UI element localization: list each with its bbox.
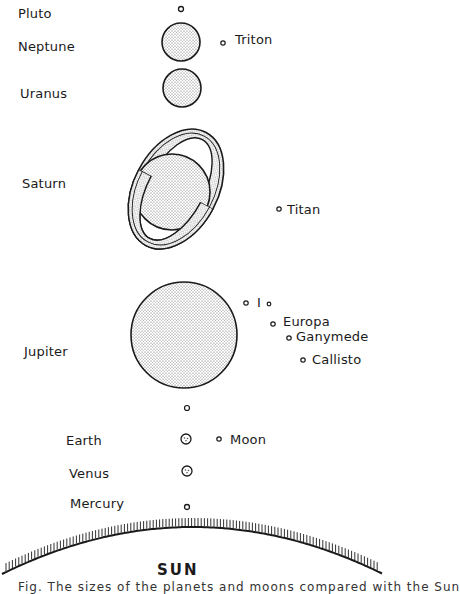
small-body-dot-1: [185, 406, 190, 411]
moon-i-dot: [244, 301, 248, 305]
label-moon-triton: Triton: [235, 33, 272, 46]
moon-europa-dot: [271, 322, 275, 326]
label-saturn: Saturn: [22, 177, 66, 190]
label-neptune: Neptune: [18, 40, 75, 53]
label-moon-moon: Moon: [230, 433, 266, 446]
planet-uranus: [163, 69, 201, 107]
moon-titan-dot: [277, 207, 281, 211]
label-venus: Venus: [69, 467, 109, 480]
venus-surface-spot: [186, 472, 188, 474]
label-moon-titan: Titan: [287, 203, 320, 216]
label-jupiter: Jupiter: [24, 345, 68, 358]
planet-mercury: [185, 505, 190, 510]
planet-jupiter: [131, 282, 237, 388]
planet-neptune: [162, 23, 200, 61]
planet-earth: [181, 434, 191, 444]
label-moon-callisto: Callisto: [312, 353, 361, 366]
label-moon-i: I: [257, 296, 261, 309]
moon-triton-dot: [221, 41, 225, 45]
venus-surface-spot: [188, 470, 190, 472]
label-moon-ganymede: Ganymede: [296, 330, 368, 343]
planet-pluto: [179, 7, 184, 12]
moon-ganymede-dot: [287, 336, 291, 340]
label-earth: Earth: [66, 434, 102, 447]
planet-venus: [182, 466, 192, 476]
label-uranus: Uranus: [20, 87, 67, 100]
earth-surface-spot: [184, 437, 186, 439]
label-moon-europa: Europa: [283, 315, 330, 328]
label-mercury: Mercury: [70, 497, 124, 510]
moon-moon-dot: [217, 437, 221, 441]
sun-label: SUN: [157, 563, 199, 578]
label-pluto: Pluto: [18, 7, 52, 20]
earth-surface-spot: [185, 440, 187, 442]
earth-surface-spot: [187, 438, 189, 440]
venus-surface-spot: [185, 469, 187, 471]
small-body-dot-0: [267, 302, 271, 306]
moon-callisto-dot: [301, 358, 305, 362]
figure-caption: Fig. The sizes of the planets and moons …: [18, 580, 460, 594]
